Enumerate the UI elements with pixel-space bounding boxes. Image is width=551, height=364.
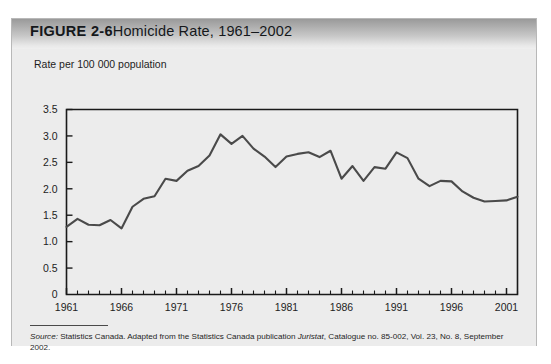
svg-text:3.5: 3.5 bbox=[43, 103, 58, 115]
source-divider bbox=[30, 325, 108, 326]
chart-plot-area: 00.51.01.52.02.53.03.5196119661971197619… bbox=[12, 49, 538, 346]
source-publication: Juristat bbox=[298, 332, 324, 341]
svg-text:1976: 1976 bbox=[220, 301, 244, 313]
svg-text:1981: 1981 bbox=[275, 301, 299, 313]
figure-panel: FIGURE 2-6Homicide Rate, 1961–2002 Rate … bbox=[11, 18, 537, 346]
svg-text:1996: 1996 bbox=[440, 301, 464, 313]
source-prefix: Source: bbox=[30, 332, 58, 341]
figure-title-bar: FIGURE 2-6Homicide Rate, 1961–2002 bbox=[12, 19, 536, 49]
svg-text:1966: 1966 bbox=[110, 301, 134, 313]
source-body-1: Statistics Canada. Adapted from the Stat… bbox=[58, 332, 298, 341]
figure-body: Rate per 100 000 population 00.51.01.52.… bbox=[12, 49, 536, 346]
figure-name: Homicide Rate, 1961–2002 bbox=[113, 23, 292, 39]
source-note: Source: Statistics Canada. Adapted from … bbox=[30, 325, 522, 354]
svg-text:2.5: 2.5 bbox=[43, 156, 58, 168]
svg-text:1.0: 1.0 bbox=[43, 235, 58, 247]
homicide-rate-line-chart: 00.51.01.52.02.53.03.5196119661971197619… bbox=[12, 49, 538, 346]
svg-text:1961: 1961 bbox=[55, 301, 79, 313]
svg-text:1986: 1986 bbox=[330, 301, 354, 313]
svg-text:1.5: 1.5 bbox=[43, 209, 58, 221]
svg-text:0.5: 0.5 bbox=[43, 262, 58, 274]
svg-text:3.0: 3.0 bbox=[43, 130, 58, 142]
svg-text:1991: 1991 bbox=[385, 301, 409, 313]
svg-text:1971: 1971 bbox=[165, 301, 189, 313]
svg-text:2001: 2001 bbox=[495, 301, 519, 313]
svg-text:2.0: 2.0 bbox=[43, 183, 58, 195]
figure-number: FIGURE 2-6 bbox=[30, 23, 113, 39]
source-text: Source: Statistics Canada. Adapted from … bbox=[30, 331, 522, 354]
page-title: FIGURE 2-6Homicide Rate, 1961–2002 bbox=[30, 23, 292, 39]
svg-text:0: 0 bbox=[52, 288, 58, 300]
